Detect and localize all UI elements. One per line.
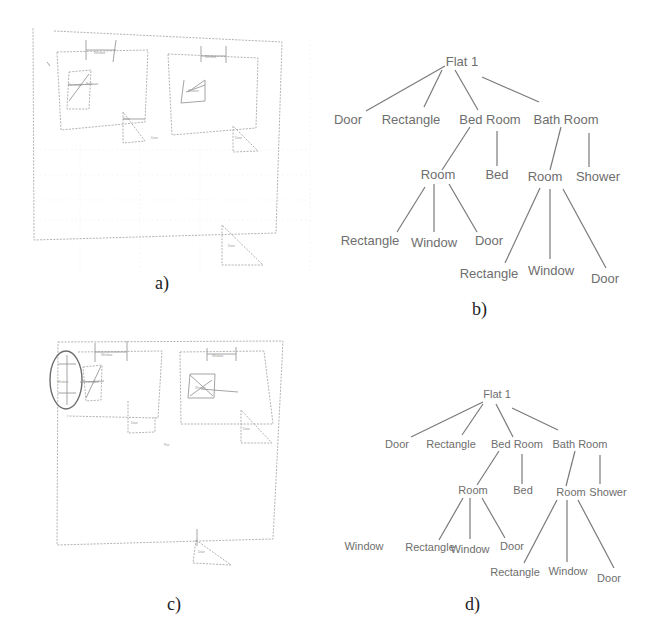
tree-node-door: Door [591, 271, 620, 286]
panel-d-tree: Flat 1 Door Rectangle Bed Room Bath Room… [344, 388, 627, 584]
sketch-label-door: Door [235, 136, 243, 140]
panel-b-caption: b) [472, 299, 487, 320]
tree-node-bath-room: Bath Room [533, 112, 598, 127]
sketch-label-window: Window [101, 353, 113, 357]
sketch-label-window: Window [205, 55, 217, 59]
tree-node-bed: Bed [513, 484, 533, 496]
panel-b-tree: Flat 1 Door Rectangle Bed Room Bath Room… [334, 54, 621, 286]
sketch-label-door: Door [123, 117, 131, 121]
tree-node-rectangle: Rectangle [382, 112, 441, 127]
sketch-label-shower: Shower [188, 89, 200, 93]
sketch-label-window: Window [94, 51, 106, 55]
tree-node-bath-room: Bath Room [552, 438, 607, 450]
tree-node-rectangle: Rectangle [490, 566, 540, 578]
tree-node-window: Window [528, 263, 575, 278]
panel-d-caption: d) [465, 594, 480, 615]
bathroom-outline [168, 54, 258, 135]
tree-node-room: Room [556, 486, 585, 498]
tree-node-bed-room: Bed Room [459, 112, 520, 127]
tree-node-root: Flat 1 [483, 388, 511, 400]
tree-node-bed-room: Bed Room [491, 438, 543, 450]
panel-a-grid [35, 40, 310, 275]
sketch-label-shower: Shower [195, 386, 207, 390]
sketch-label-door: Door [131, 421, 139, 425]
tree-node-room: Room [458, 484, 487, 496]
bedroom-outline [57, 50, 148, 130]
panel-a-sketch: Window Rectangle Bed Door Door Window Sh… [33, 28, 310, 275]
bathroom-outline [180, 351, 273, 424]
sketch-label-window: Window [212, 354, 224, 358]
bedroom-door [128, 401, 155, 433]
pen-mark [47, 62, 50, 66]
tree-node-window: Window [344, 540, 383, 552]
flat-outline [33, 28, 282, 240]
tree-node-window: Window [548, 565, 587, 577]
tree-node-shower: Shower [589, 486, 627, 498]
tree-node-window: Window [411, 235, 458, 250]
tree-node-door: Door [475, 233, 504, 248]
tree-node-door: Door [597, 572, 621, 584]
sketch-label-bed: Bed [86, 82, 92, 86]
panel-c-caption: c) [167, 594, 181, 615]
tree-node-rectangle: Rectangle [341, 233, 400, 248]
tree-node-room: Room [528, 169, 563, 184]
sketch-label-flat: Flat [164, 443, 169, 447]
sketch-label-bed: Bed [93, 380, 99, 384]
tree-node-shower: Shower [576, 169, 621, 184]
figure-canvas: Window Rectangle Bed Door Door Window Sh… [0, 0, 659, 641]
tree-node-room: Room [421, 167, 456, 182]
tree-node-bed: Bed [485, 167, 508, 182]
tree-node-rectangle: Rectangle [460, 266, 519, 281]
tree-node-root: Flat 1 [446, 54, 479, 69]
panel-a-caption: a) [155, 273, 169, 294]
tree-node-door: Door [500, 540, 524, 552]
tree-node-rectangle: Rectangle [426, 438, 476, 450]
sketch-label-door: Door [228, 244, 236, 248]
sketch-label-door: Door [198, 550, 206, 554]
tree-node-window: Window [450, 543, 489, 555]
tree-node-door: Door [334, 112, 363, 127]
sketch-label-door: Door [243, 427, 251, 431]
sketch-label-rectangle: Rectangle [68, 83, 83, 87]
sketch-label-door: Door [151, 136, 159, 140]
tree-node-rectangle: Rectangle [405, 541, 455, 553]
sketch-label-window-highlighted: Window [57, 380, 69, 384]
panel-c-sketch: Window Window Rectangle Bed Door Flat Wi… [50, 341, 283, 565]
tree-node-door: Door [385, 438, 409, 450]
